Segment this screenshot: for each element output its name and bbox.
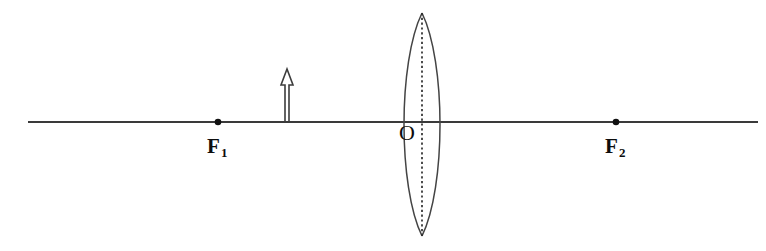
focal-point-f1-subscript: 1 [221,145,228,160]
focal-point-f1-dot [215,119,222,126]
focal-point-f2-subscript: 2 [619,145,626,160]
optical-center-label: O [399,120,415,145]
focal-point-f2-dot [613,119,620,126]
object-arrow-outline [281,69,293,122]
optics-diagram-svg: F 1 F 2 O [0,0,766,251]
lens-right-surface [422,13,440,236]
focal-point-f2-label: F [605,134,618,158]
optics-diagram-canvas: F 1 F 2 O [0,0,766,251]
focal-point-f1-label: F [207,134,220,158]
